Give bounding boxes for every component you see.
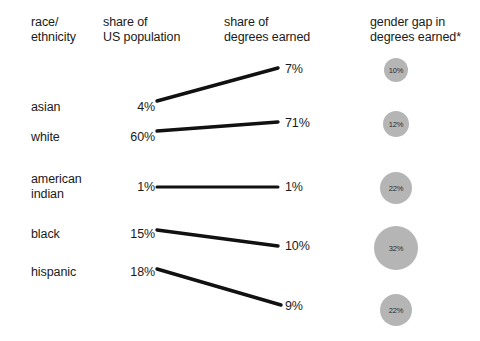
- degrees-value-black: 10%: [285, 239, 310, 253]
- slopegraph-chart: race/ ethnicity share of US population s…: [0, 0, 480, 341]
- gap-bubble-hispanic: 22%: [380, 294, 412, 326]
- slope-line-black: [157, 230, 278, 246]
- row-label-black: black: [31, 227, 60, 242]
- population-value-hispanic: 18%: [95, 265, 155, 279]
- slope-line-white: [157, 122, 278, 131]
- slope-lines-group: [0, 0, 480, 341]
- row-label-hispanic: hispanic: [31, 265, 76, 280]
- gap-bubble-white: 12%: [383, 111, 409, 137]
- degrees-value-white: 71%: [285, 116, 310, 130]
- population-value-black: 15%: [95, 227, 155, 241]
- slope-line-asian: [157, 68, 278, 101]
- population-value-asian: 4%: [95, 100, 155, 114]
- row-label-white: white: [31, 130, 60, 145]
- degrees-value-asian: 7%: [285, 62, 303, 76]
- degrees-value-american-indian: 1%: [285, 180, 303, 194]
- slope-line-hispanic: [157, 269, 281, 305]
- gap-bubble-black: 32%: [374, 226, 418, 270]
- population-value-american-indian: 1%: [95, 180, 155, 194]
- gap-bubble-asian: 10%: [384, 58, 408, 82]
- population-value-white: 60%: [95, 130, 155, 144]
- degrees-value-hispanic: 9%: [285, 299, 303, 313]
- row-label-american-indian: american indian: [31, 172, 82, 201]
- gap-bubble-american-indian: 22%: [380, 172, 412, 204]
- row-label-asian: asian: [31, 100, 60, 115]
